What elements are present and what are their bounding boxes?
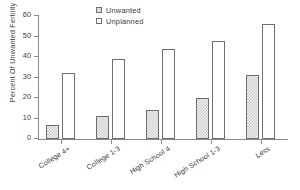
x-axis-tick [161, 140, 162, 144]
y-axis-tick-label: 20 [23, 92, 31, 101]
x-axis-label-2: High School 4 [127, 144, 171, 176]
x-axis-label-0: College 4+ [36, 144, 71, 170]
bar-chart: Percent Of Unwanted Fertility Unwanted U… [0, 0, 300, 190]
bar-unwanted-2[interactable] [146, 110, 159, 139]
y-axis-tick: 10 [34, 118, 39, 119]
x-axis-tick [211, 140, 212, 144]
x-axis-tick [61, 140, 62, 144]
bar-unplanned-0[interactable] [62, 73, 75, 139]
x-axis-tick [261, 140, 262, 144]
bar-unplanned-2[interactable] [162, 49, 175, 139]
x-axis-tick [111, 140, 112, 144]
bar-unplanned-3[interactable] [212, 41, 225, 139]
y-axis-tick-label: 10 [23, 113, 31, 122]
x-axis-label-4: Less [253, 144, 271, 160]
bar-unplanned-1[interactable] [112, 59, 125, 139]
legend-item-unwanted[interactable]: Unwanted [96, 5, 144, 15]
y-axis-tick: 50 [34, 36, 39, 37]
y-axis-tick: 0 [34, 138, 39, 139]
plot-area: 0102030405060 [38, 16, 288, 140]
y-axis-tick: 60 [34, 15, 39, 16]
y-axis-title: Percent Of Unwanted Fertility [8, 0, 17, 118]
legend-label-unwanted: Unwanted [106, 6, 141, 15]
bar-unwanted-3[interactable] [196, 98, 209, 139]
y-axis-tick-label: 0 [27, 133, 31, 142]
y-axis-tick: 40 [34, 56, 39, 57]
y-axis-tick: 30 [34, 77, 39, 78]
y-axis-tick-label: 50 [23, 31, 31, 40]
x-axis-label-1: College 1-3 [84, 144, 121, 172]
bar-unwanted-1[interactable] [96, 116, 109, 139]
x-axis-label-3: High School 1-3 [172, 144, 221, 180]
y-axis-tick-label: 30 [23, 72, 31, 81]
bar-unwanted-0[interactable] [46, 125, 59, 139]
bar-unwanted-4[interactable] [246, 75, 259, 139]
legend-swatch-unwanted-icon [96, 7, 102, 13]
bar-unplanned-4[interactable] [262, 24, 275, 139]
y-axis-tick-label: 40 [23, 51, 31, 60]
x-axis-line [38, 139, 288, 140]
y-axis-tick: 20 [34, 97, 39, 98]
y-axis-tick-label: 60 [23, 10, 31, 19]
